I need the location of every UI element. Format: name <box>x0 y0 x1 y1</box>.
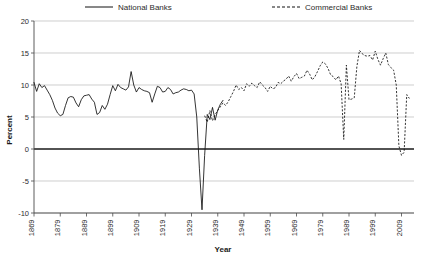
x-tick-label-1959: 1959 <box>263 220 272 237</box>
x-tick-label-1919: 1919 <box>158 220 167 237</box>
x-tick-label-1929: 1929 <box>185 220 194 237</box>
series-line-commercial-banks <box>205 50 410 155</box>
series-line-national-banks <box>34 72 223 210</box>
x-tick-label-1879: 1879 <box>53 220 62 237</box>
chart-figure: National Banks Commercial Banks -10-5051… <box>0 0 422 258</box>
y-tick-label-20: 20 <box>21 17 29 26</box>
x-tick-label-1899: 1899 <box>106 220 115 237</box>
x-tick-label-1969: 1969 <box>290 220 299 237</box>
chart-x-axis: 1869187918891899190919191929193919491959… <box>27 213 404 236</box>
x-tick-label-1869: 1869 <box>27 220 36 237</box>
x-axis-title: Year <box>215 245 232 254</box>
y-tick-label-10: 10 <box>21 81 29 90</box>
x-tick-label-1939: 1939 <box>211 220 220 237</box>
legend-label-commercial: Commercial Banks <box>305 3 372 12</box>
y-tick-label--5: -5 <box>22 177 29 186</box>
legend-label-national: National Banks <box>118 3 172 12</box>
y-tick-label-15: 15 <box>21 49 29 58</box>
chart-series-layer <box>34 50 409 209</box>
chart-gridlines <box>34 21 414 213</box>
x-tick-label-1999: 1999 <box>368 220 377 237</box>
chart-y-axis: -10-505101520 <box>18 17 34 218</box>
x-tick-label-1989: 1989 <box>342 220 351 237</box>
y-tick-label--10: -10 <box>18 209 29 218</box>
chart-legend: National Banks Commercial Banks <box>85 3 372 12</box>
x-tick-label-1909: 1909 <box>132 220 141 237</box>
y-tick-label-5: 5 <box>25 113 29 122</box>
x-tick-label-1889: 1889 <box>80 220 89 237</box>
y-axis-title: Percent <box>5 115 14 145</box>
x-tick-label-1979: 1979 <box>316 220 325 237</box>
x-tick-label-1949: 1949 <box>237 220 246 237</box>
x-tick-label-2009: 2009 <box>395 220 404 237</box>
y-tick-label-0: 0 <box>25 145 29 154</box>
